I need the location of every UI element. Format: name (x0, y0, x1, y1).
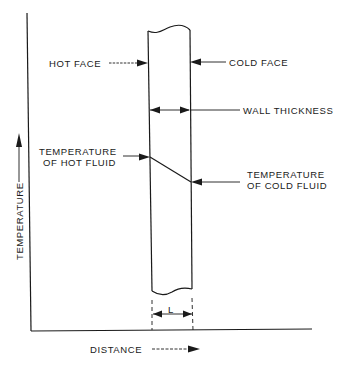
x-axis-line (31, 329, 312, 331)
thickness-dimension: L (153, 304, 192, 318)
x-axis-label: DISTANCE (90, 344, 142, 355)
hot-face-arrowhead-icon (137, 60, 148, 67)
cold-face-label: COLD FACE (229, 57, 288, 68)
hot-face-label: HOT FACE (49, 58, 101, 69)
hot-fluid-arrowhead-icon (139, 154, 150, 161)
wall-hot-face-line (148, 31, 152, 291)
hot-fluid-label-line1: TEMPERATURE (39, 146, 117, 157)
cold-fluid-label-line2: OF COLD FLUID (247, 180, 327, 191)
y-axis-label: TEMPERATURE (14, 182, 25, 260)
l-extension-right (192, 298, 193, 330)
cold-fluid-label-line1: TEMPERATURE (247, 169, 325, 180)
cold-fluid-temperature-annotation: TEMPERATURE OF COLD FLUID (191, 169, 327, 191)
y-axis-arrowhead-icon (16, 133, 22, 147)
x-axis-label-group: DISTANCE (90, 344, 200, 355)
cold-face-annotation: COLD FACE (190, 57, 288, 68)
l-right-arrowhead-icon (183, 311, 192, 318)
x-axis-arrowhead-icon (188, 346, 200, 353)
wall-thickness-label: WALL THICKNESS (243, 105, 333, 116)
wall-cold-face-line (190, 30, 192, 289)
y-axis-line (27, 13, 31, 331)
wall-thickness-right-arrowhead-icon (180, 107, 190, 114)
wall-thickness-left-arrowhead-icon (150, 107, 160, 114)
hot-face-annotation: HOT FACE (49, 58, 148, 69)
temperature-profile-line (150, 157, 191, 182)
cold-face-arrowhead-icon (190, 59, 201, 66)
cold-fluid-arrowhead-icon (191, 179, 202, 186)
wall-temperature-diagram: TEMPERATURE DISTANCE L HOT FACE COLD FAC… (0, 0, 352, 366)
hot-fluid-temperature-annotation: TEMPERATURE OF HOT FLUID (39, 146, 150, 168)
hot-fluid-label-line2: OF HOT FLUID (43, 157, 116, 168)
y-axis-label-group: TEMPERATURE (14, 133, 25, 260)
thickness-symbol-label: L (168, 304, 174, 315)
l-left-arrowhead-icon (153, 311, 162, 318)
wall-bottom-break (152, 288, 192, 295)
wall-thickness-annotation: WALL THICKNESS (150, 105, 333, 116)
wall-top-break (148, 25, 190, 32)
